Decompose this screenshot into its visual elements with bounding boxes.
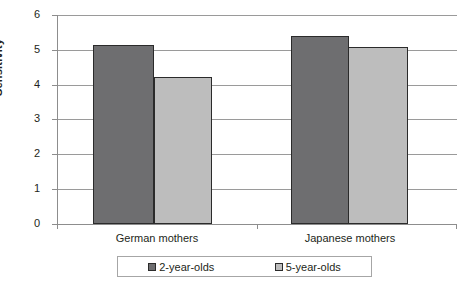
- bar-german-5-year-olds[interactable]: [154, 77, 212, 224]
- y-tick-label-5: 5: [0, 44, 40, 55]
- y-axis-line: [57, 15, 58, 224]
- legend-swatch-icon-5-year-olds: [275, 263, 283, 271]
- y-tick-label-4: 4: [0, 79, 40, 90]
- category-label-japanese-mothers: Japanese mothers: [280, 232, 420, 244]
- y-tick-label-2: 2: [0, 148, 40, 159]
- y-tick-label-1: 1: [0, 183, 40, 194]
- bar-chart-figure: Sensitivity 6 5 4 3 2 1 0 German mothers…: [0, 0, 471, 294]
- x-tick-mark-middle: [257, 224, 258, 229]
- legend: 2-year-olds 5-year-olds: [117, 256, 372, 277]
- gridline-6: [57, 15, 457, 16]
- legend-entry-2-year-olds[interactable]: 2-year-olds: [118, 261, 245, 273]
- legend-label-2-year-olds: 2-year-olds: [159, 261, 214, 273]
- legend-entry-5-year-olds[interactable]: 5-year-olds: [245, 261, 372, 273]
- y-tick-label-3: 3: [0, 113, 40, 124]
- bar-japanese-5-year-olds[interactable]: [348, 47, 408, 224]
- legend-swatch-icon-2-year-olds: [148, 263, 156, 271]
- x-tick-mark-end: [456, 224, 457, 229]
- legend-label-5-year-olds: 5-year-olds: [286, 261, 341, 273]
- category-label-german-mothers: German mothers: [87, 232, 227, 244]
- bar-japanese-2-year-olds[interactable]: [291, 36, 349, 224]
- y-tick-label-0: 0: [0, 218, 40, 229]
- bar-german-2-year-olds[interactable]: [93, 45, 154, 224]
- x-tick-mark-start: [57, 224, 58, 229]
- plot-area: [57, 15, 457, 224]
- y-tick-label-6: 6: [0, 9, 40, 20]
